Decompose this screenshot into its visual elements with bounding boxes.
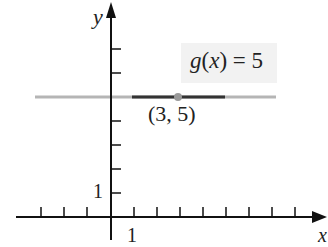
point-label: (3, 5) (148, 101, 196, 127)
function-name: g (190, 48, 202, 73)
function-value: = 5 (233, 48, 263, 73)
y-unit-label: 1 (93, 180, 103, 203)
x-unit-label: 1 (127, 224, 137, 247)
y-axis-arrow-icon (106, 2, 116, 18)
point-marker (174, 93, 182, 101)
x-axis-label: x (318, 224, 327, 247)
y-ticks (111, 49, 121, 193)
y-axis-label: y (93, 4, 103, 30)
function-var: x (209, 48, 219, 73)
x-axis-arrow-icon (312, 211, 327, 223)
x-ticks (41, 207, 295, 217)
function-label: g(x) = 5 (190, 48, 263, 74)
